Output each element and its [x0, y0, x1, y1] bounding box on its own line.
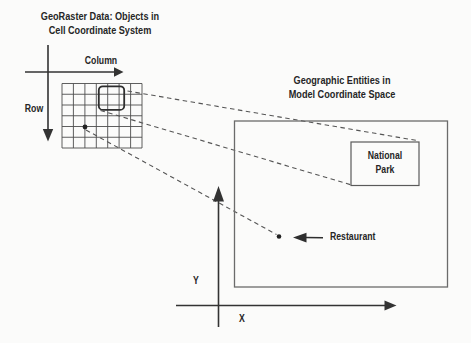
restaurant-pointer-arrow: [293, 233, 323, 243]
restaurant-cell-dot: [83, 125, 88, 130]
row-axis-arrow: [43, 45, 53, 142]
column-axis-arrowhead: [114, 67, 124, 77]
restaurant-point: [277, 234, 282, 239]
cell-space-title: GeoRaster Data: Objects in Cell Coordina…: [41, 10, 159, 37]
national-park-label-line1: National: [368, 149, 402, 163]
diagram-canvas: GeoRaster Data: Objects in Cell Coordina…: [0, 0, 471, 343]
cell-space-title-line1: GeoRaster Data: Objects in: [41, 10, 159, 24]
x-axis-arrowhead: [385, 301, 397, 311]
model-space-title-line1: Geographic Entities in: [289, 74, 396, 88]
national-park-label-line2: Park: [368, 163, 402, 177]
national-park-label: National Park: [368, 149, 402, 177]
row-axis-label: Row: [25, 103, 43, 115]
y-axis-arrowhead: [213, 186, 224, 202]
column-axis-arrow: [25, 67, 124, 77]
y-axis-label: Y: [193, 275, 199, 287]
cell-space-title-line2: Cell Coordinate System: [41, 24, 159, 38]
restaurant-label: Restaurant: [330, 231, 375, 243]
model-space-title-line2: Model Coordinate Space: [289, 88, 396, 102]
column-axis-label: Column: [85, 55, 117, 67]
mapping-line-restaurant: [86, 130, 277, 235]
model-space-title: Geographic Entities in Model Coordinate …: [289, 74, 396, 101]
restaurant-arrowhead: [293, 233, 307, 243]
x-axis-label: X: [239, 313, 245, 325]
row-axis-arrowhead: [43, 129, 53, 142]
x-axis-arrow: [176, 301, 397, 311]
park-footprint-cell-rect: [99, 86, 124, 110]
